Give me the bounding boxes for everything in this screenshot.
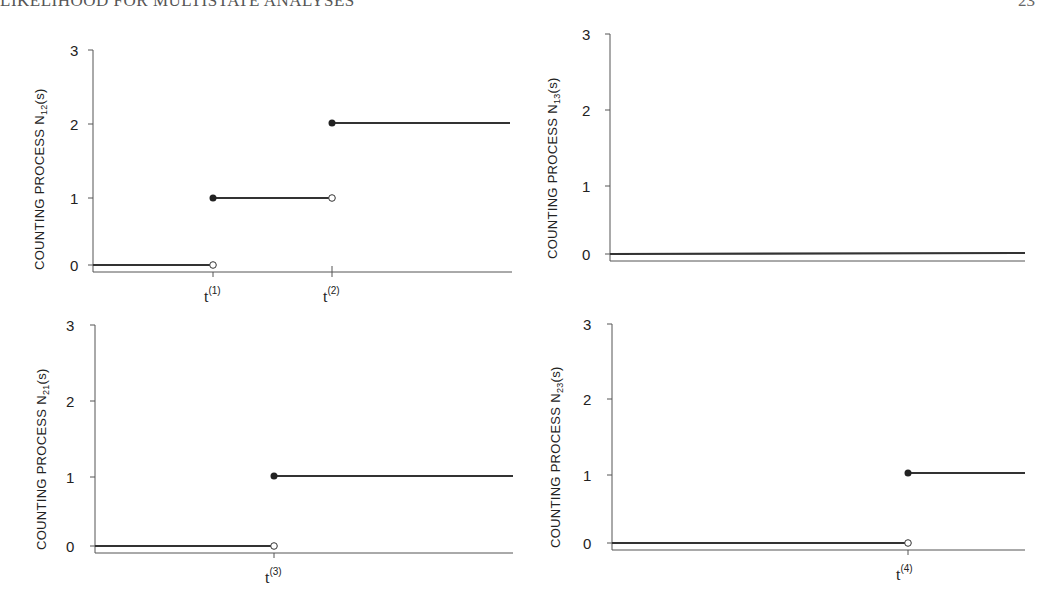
panel-n13: 3 2 1 0 COUNTING PROCESS N13(s) — [545, 26, 1025, 263]
ytick-label: 3 — [582, 26, 590, 43]
closed-point-marker — [329, 120, 336, 127]
y-axis-label: COUNTING PROCESS N23(s) — [548, 366, 565, 548]
ytick-label: 1 — [70, 190, 78, 207]
svg-text:COUNTING PROCESS N12(s): COUNTING PROCESS N12(s) — [32, 88, 49, 270]
ytick-label: 1 — [582, 178, 590, 195]
panel-n12: 3 2 1 0 COUNTING PROCESS N12(s) t(1) t(2… — [32, 42, 512, 305]
ytick-label: 2 — [66, 393, 74, 410]
ytick-label: 2 — [583, 391, 591, 408]
svg-text:COUNTING PROCESS N13(s): COUNTING PROCESS N13(s) — [545, 77, 562, 259]
xtick-label-t2: t(2) — [323, 285, 340, 305]
ytick-label: 0 — [66, 538, 74, 555]
ytick-label: 0 — [582, 246, 590, 263]
closed-point-marker — [271, 473, 278, 480]
panel-n21: 3 2 1 0 COUNTING PROCESS N21(s) t(3) — [34, 317, 513, 586]
y-axis-label: COUNTING PROCESS N13(s) — [545, 77, 562, 259]
figure: 3 2 1 0 COUNTING PROCESS N12(s) t(1) t(2… — [0, 0, 1053, 609]
step-segment — [610, 253, 1025, 254]
xtick-label-t4: t(4) — [896, 563, 913, 583]
ytick-label: 3 — [70, 42, 78, 59]
ytick-label: 3 — [66, 317, 74, 334]
ytick-label: 0 — [70, 257, 78, 274]
ytick-label: 2 — [582, 102, 590, 119]
xtick-label-t1: t(1) — [204, 285, 221, 305]
ytick-label: 0 — [583, 535, 591, 552]
open-point-marker — [271, 543, 278, 550]
y-axis-label: COUNTING PROCESS N12(s) — [32, 88, 49, 270]
open-point-marker — [210, 262, 217, 269]
open-point-marker — [329, 195, 336, 202]
svg-text:COUNTING PROCESS N23(s): COUNTING PROCESS N23(s) — [548, 366, 565, 548]
open-point-marker — [905, 540, 912, 547]
xtick-label-t3: t(3) — [265, 566, 282, 586]
ytick-label: 1 — [583, 467, 591, 484]
closed-point-marker — [210, 195, 217, 202]
ytick-label: 1 — [66, 469, 74, 486]
ytick-label: 2 — [70, 116, 78, 133]
panel-n23: 3 2 1 0 COUNTING PROCESS N23(s) t(4) — [548, 316, 1025, 583]
ytick-label: 3 — [583, 316, 591, 333]
svg-text:COUNTING PROCESS N21(s): COUNTING PROCESS N21(s) — [34, 368, 51, 550]
y-axis-label: COUNTING PROCESS N21(s) — [34, 368, 51, 550]
closed-point-marker — [905, 470, 912, 477]
